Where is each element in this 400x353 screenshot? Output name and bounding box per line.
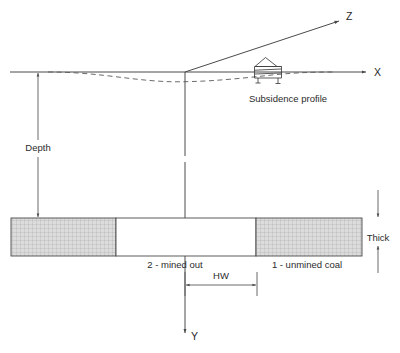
thickness-dimension-group: Thick — [367, 190, 390, 273]
z-axis-group: Z — [185, 10, 353, 72]
subsidence-profile-label: Subsidence profile — [249, 93, 327, 104]
seam-mined-out-block — [116, 218, 256, 256]
subsidence-diagram: X Z Y — [0, 0, 400, 353]
seam-right-unmined-block — [256, 218, 362, 256]
thickness-label: Thick — [367, 232, 390, 243]
subsidence-profile-curve — [48, 72, 336, 82]
depth-label: Depth — [25, 142, 50, 153]
y-axis-label: Y — [191, 330, 198, 342]
y-axis-group: Y — [185, 72, 198, 342]
unmined-coal-label: 1 - unmined coal — [272, 259, 342, 270]
depth-dimension-group: Depth — [25, 73, 50, 217]
z-axis-label: Z — [346, 10, 353, 22]
diagram-canvas: X Z Y — [0, 0, 400, 353]
house-on-stilts-icon — [255, 58, 282, 84]
seam-left-unmined-block — [11, 218, 116, 256]
panel-width-dimension-group: HW — [185, 270, 257, 296]
panel-width-label: HW — [213, 270, 229, 281]
coal-seam-group — [11, 218, 362, 256]
x-axis-label: X — [374, 66, 381, 78]
mined-out-label: 2 - mined out — [147, 259, 203, 270]
z-axis-line — [185, 21, 339, 72]
subsidence-profile-group — [48, 72, 336, 82]
